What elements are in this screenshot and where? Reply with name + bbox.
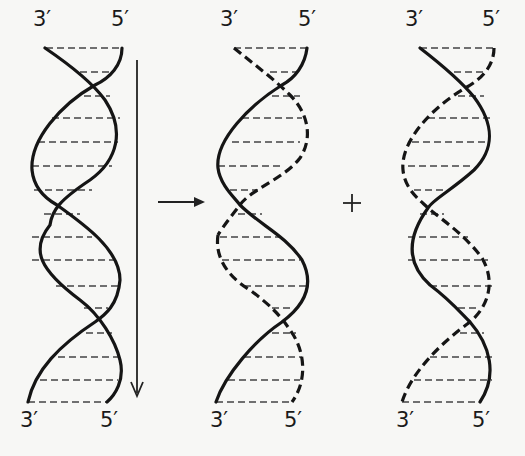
parent-top-left-label: 3′ bbox=[33, 7, 51, 31]
daughter1-bottom-left-label: 3′ bbox=[210, 408, 228, 432]
parent-bottom-left-label: 3′ bbox=[20, 408, 38, 432]
parent-bottom-right-label: 5′ bbox=[100, 408, 118, 432]
daughter2-bottom-left-label: 3′ bbox=[396, 408, 414, 432]
daughter-helix-1: 3′ 5′ 3′ 5′ bbox=[210, 7, 316, 432]
parent-base-pair-rungs bbox=[28, 48, 122, 402]
daughter2-new-strand bbox=[402, 48, 494, 402]
parent-strand-b bbox=[28, 48, 122, 402]
daughter1-top-left-label: 3′ bbox=[220, 7, 238, 31]
direction-arrow bbox=[131, 60, 143, 396]
parent-helix: 3′ 5′ 3′ 5′ bbox=[20, 7, 143, 432]
daughter1-bottom-right-label: 5′ bbox=[284, 408, 302, 432]
daughter1-parent-strand-top bbox=[216, 48, 308, 402]
daughter-helix-2: 3′ 5′ 3′ 5′ bbox=[396, 7, 500, 432]
daughter1-top-right-label: 5′ bbox=[298, 7, 316, 31]
parent-top-right-label: 5′ bbox=[111, 7, 129, 31]
daughter2-top-left-label: 3′ bbox=[405, 7, 423, 31]
daughter2-top-right-label: 5′ bbox=[482, 7, 500, 31]
dna-replication-diagram: 3′ 5′ 3′ 5′ bbox=[0, 0, 525, 456]
daughter2-parent-strand bbox=[412, 48, 490, 402]
plus-sign bbox=[343, 194, 361, 212]
daughter2-bottom-right-label: 5′ bbox=[472, 408, 490, 432]
parent-strand-a bbox=[40, 48, 121, 402]
yields-arrow bbox=[158, 197, 205, 207]
